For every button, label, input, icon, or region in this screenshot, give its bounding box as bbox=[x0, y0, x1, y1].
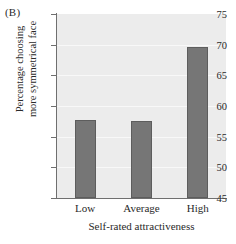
x-axis-title: Self-rated attractiveness bbox=[57, 220, 226, 232]
y-axis-tick bbox=[51, 167, 57, 168]
y-axis-title-line-2: more symmetrical face bbox=[26, 0, 39, 143]
y-axis-tick bbox=[51, 45, 57, 46]
y-axis-tick bbox=[51, 198, 57, 199]
x-axis-tick-label: High bbox=[187, 202, 209, 214]
y-axis-title: Percentage choosing more symmetrical fac… bbox=[13, 0, 39, 143]
bar bbox=[187, 47, 208, 198]
bar bbox=[131, 121, 152, 198]
x-axis-tick-label: Average bbox=[123, 202, 159, 214]
x-axis-tick-label: Low bbox=[75, 202, 95, 214]
y-axis-tick bbox=[51, 137, 57, 138]
bar bbox=[75, 120, 96, 198]
y-axis-tick bbox=[51, 75, 57, 76]
y-axis-title-line-1: Percentage choosing bbox=[13, 0, 26, 143]
y-axis-tick bbox=[51, 106, 57, 107]
y-axis-tick bbox=[51, 14, 57, 15]
chart-figure: (B) 45505560657075 LowAverageHigh Self-r… bbox=[0, 0, 236, 244]
y-axis-tick-label: 75 bbox=[190, 9, 236, 20]
